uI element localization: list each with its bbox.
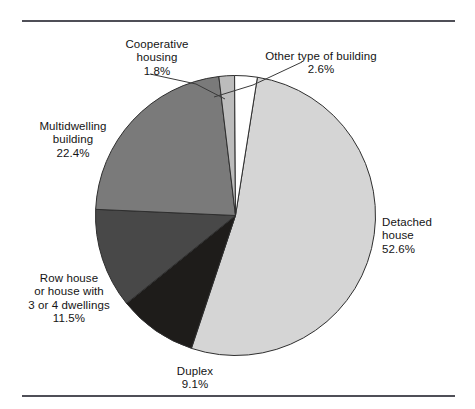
- slice-label-cooperative-housing-percent: 1.8%: [96, 65, 218, 79]
- slice-label-cooperative-housing-text: Cooperative housing: [125, 38, 188, 64]
- slice-label-multidwelling-building: Multidwelling building 22.4%: [12, 106, 134, 174]
- pie-slice-group: Detached house 52.6%Duplex 9.1%Row house…: [96, 75, 376, 355]
- slice-label-other-type-of-building-percent: 2.6%: [246, 63, 396, 77]
- slice-label-detached-house-percent: 52.6%: [382, 243, 474, 257]
- slice-label-duplex-text: Duplex: [177, 365, 213, 377]
- slice-label-row-house: Row house or house with 3 or 4 dwellings…: [2, 258, 136, 339]
- slice-label-multidwelling-building-percent: 22.4%: [12, 147, 134, 161]
- slice-label-other-type-of-building-text: Other type of building: [265, 50, 377, 62]
- slice-label-detached-house: Detached house 52.6%: [382, 202, 474, 270]
- slice-label-other-type-of-building: Other type of building 2.6%: [246, 36, 396, 90]
- figure-container: Detached house 52.6%Duplex 9.1%Row house…: [0, 0, 475, 409]
- slice-label-row-house-text: Row house or house with 3 or 4 dwellings: [28, 272, 110, 311]
- slice-label-duplex-percent: 9.1%: [140, 378, 250, 392]
- slice-label-cooperative-housing: Cooperative housing 1.8%: [96, 24, 218, 92]
- slice-label-duplex: Duplex 9.1%: [140, 351, 250, 405]
- slice-label-row-house-percent: 11.5%: [2, 312, 136, 326]
- slice-label-multidwelling-building-text: Multidwelling building: [39, 120, 106, 146]
- slice-label-detached-house-text: Detached house: [382, 216, 432, 242]
